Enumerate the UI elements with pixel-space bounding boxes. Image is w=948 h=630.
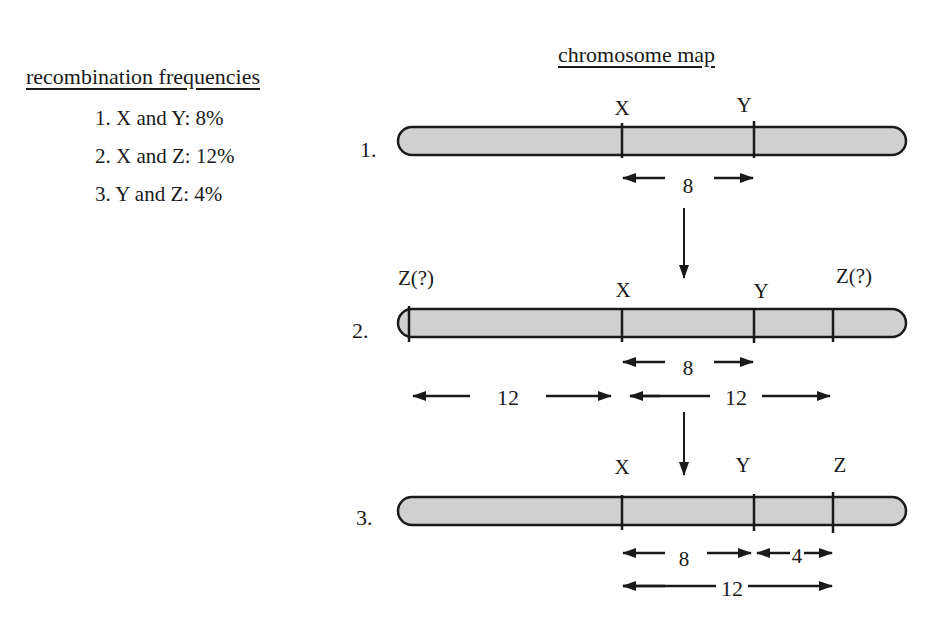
gene-label-z-left: Z(?) (398, 266, 434, 290)
gene-label-z-right: Z(?) (836, 264, 872, 288)
distance-xy: 8 (683, 174, 694, 198)
gene-label-x: X (614, 96, 629, 120)
chromosome-bar (398, 497, 906, 525)
chromosome-bar (398, 309, 906, 337)
distance-yz: 4 (792, 544, 803, 568)
row-number: 1. (360, 137, 377, 162)
chromosome-row-3: 3. X Y Z 8 4 12 (356, 453, 906, 601)
gene-label-x: X (615, 278, 630, 302)
distance-xy: 8 (683, 356, 694, 380)
chromosome-row-2: 2. Z(?) X Y Z(?) 8 12 12 (352, 264, 906, 410)
distance-right: 12 (725, 385, 747, 410)
chromosome-row-1: 1. X Y 8 (360, 93, 906, 198)
row-number: 3. (356, 505, 373, 530)
distance-xz: 12 (721, 576, 743, 601)
chromosome-bar (398, 127, 906, 155)
gene-label-z: Z (834, 453, 847, 477)
chromosome-map-diagram: 1. X Y 8 2. Z(?) X Y Z(?) 8 12 12 (0, 0, 948, 630)
gene-label-y: Y (736, 93, 751, 117)
gene-label-y: Y (735, 453, 750, 477)
distance-left: 12 (497, 385, 519, 410)
gene-label-y: Y (753, 279, 768, 303)
row-number: 2. (352, 318, 369, 343)
gene-label-x: X (614, 455, 629, 479)
distance-xy: 8 (679, 547, 690, 571)
